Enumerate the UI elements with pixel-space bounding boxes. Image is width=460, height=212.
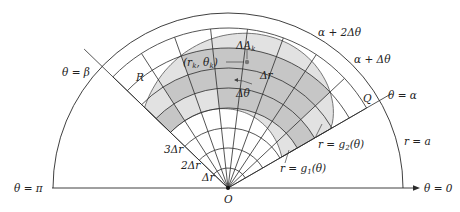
- label-q: Q: [363, 92, 372, 105]
- label-alpha-plus-dtheta: α + Δθ: [354, 53, 391, 65]
- label-3-delta-r: 3Δr: [164, 143, 184, 155]
- label-r-g1: r = g1(θ): [280, 162, 326, 176]
- sample-point: [245, 60, 249, 64]
- label-origin: O: [224, 193, 233, 205]
- label-alpha-plus-2dtheta: α + 2Δθ: [318, 26, 362, 38]
- label-region-r: R: [135, 71, 144, 83]
- polar-rectangle-cell: [215, 68, 243, 89]
- label-theta-pi: θ = π: [14, 182, 44, 194]
- label-delta-theta: Δθ: [235, 87, 251, 99]
- label-r-g2: r = g2(θ): [318, 138, 364, 152]
- label-theta-beta: θ = β: [62, 66, 90, 78]
- label-1-delta-r: Δr: [201, 171, 216, 183]
- label-delta-r: Δr: [259, 69, 274, 81]
- label-theta-zero: θ = 0: [424, 182, 453, 194]
- axis-arrow-icon: [413, 185, 420, 191]
- polar-region-diagram: θ = β θ = α θ = π θ = 0 R ΔAk (rk, θk) Δ…: [0, 0, 460, 212]
- label-r-equals-a: r = a: [404, 135, 431, 147]
- label-theta-alpha: θ = α: [388, 89, 417, 101]
- origin-point: [226, 186, 230, 190]
- label-2-delta-r: 2Δr: [180, 159, 201, 171]
